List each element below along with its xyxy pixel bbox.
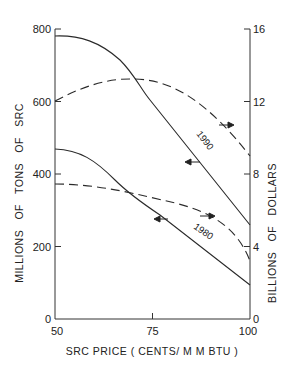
x-tick-50: 50 bbox=[51, 325, 63, 337]
line-1980-tons bbox=[55, 149, 250, 285]
label-1980: 1980 bbox=[192, 221, 216, 242]
line-1980-dollars bbox=[55, 184, 250, 261]
label-1990: 1990 bbox=[194, 128, 216, 151]
x-tick-100: 100 bbox=[239, 325, 257, 337]
y-tick-0: 0 bbox=[45, 313, 51, 325]
series-arrows bbox=[154, 122, 234, 222]
y-tick-200: 200 bbox=[33, 241, 51, 253]
y2-tick-16: 16 bbox=[253, 23, 265, 35]
x-tick-labels: 50 75 100 bbox=[51, 325, 257, 337]
y-left-axis-title: MILLIONS OF TONS OF SRC bbox=[13, 103, 25, 283]
line-1990-dollars bbox=[55, 79, 250, 156]
y2-tick-12: 12 bbox=[253, 96, 265, 108]
series-lines bbox=[55, 36, 250, 285]
x-axis-title: SRC PRICE ( CENTS/ M M BTU ) bbox=[66, 345, 239, 357]
y-tick-600: 600 bbox=[33, 96, 51, 108]
axes bbox=[55, 29, 250, 319]
y-left-tick-labels: 0 200 400 600 800 bbox=[33, 23, 51, 325]
y2-tick-0: 0 bbox=[253, 313, 259, 325]
arrow-right-icon bbox=[209, 213, 215, 219]
y2-tick-4: 4 bbox=[253, 241, 259, 253]
line-1990-tons bbox=[55, 36, 250, 225]
y2-tick-8: 8 bbox=[253, 168, 259, 180]
y-tick-800: 800 bbox=[33, 23, 51, 35]
y-tick-400: 400 bbox=[33, 168, 51, 180]
y-right-tick-labels: 0 4 8 12 16 bbox=[253, 23, 265, 325]
y-right-axis-title: BILLIONS OF DOLLARS bbox=[266, 163, 278, 303]
chart: 0 200 400 600 800 0 4 8 12 16 50 75 100 … bbox=[0, 0, 293, 371]
arrow-left-icon bbox=[154, 216, 160, 222]
arrow-right-icon bbox=[228, 122, 234, 128]
x-tick-75: 75 bbox=[146, 325, 158, 337]
arrow-left-icon bbox=[185, 159, 191, 165]
